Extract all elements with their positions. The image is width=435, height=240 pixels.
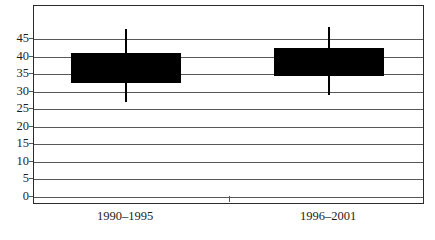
x-axis-label-0: 1990–1995 [97,210,153,223]
y-tick-label-10: 10 [3,155,29,168]
y-tick-label-0: 0 [3,190,29,203]
y-tick-label-5: 5 [3,172,29,185]
gridline-10 [34,162,423,163]
y-tick-label-40: 40 [3,49,29,62]
y-tick-label-25: 25 [3,102,29,115]
gridline-15 [34,144,423,145]
y-tick-label-35: 35 [3,67,29,80]
y-tick-label-30: 30 [3,84,29,97]
box-1 [274,48,384,76]
box-plot-chart: 051015202530354045 1990–1995 1996–2001 [0,0,435,240]
y-axis-labels: 051015202530354045 [0,5,29,204]
plot-area [33,5,424,204]
gridline-45 [34,39,423,40]
gridline-30 [34,92,423,93]
y-tick-label-15: 15 [3,137,29,150]
x-axis-label-1: 1996–2001 [300,210,356,223]
x-axis-center-tick [229,196,230,202]
y-tick-label-45: 45 [3,32,29,45]
gridline-25 [34,109,423,110]
gridline-20 [34,127,423,128]
y-tick-label-20: 20 [3,120,29,133]
gridline-5 [34,179,423,180]
box-0 [71,53,181,83]
